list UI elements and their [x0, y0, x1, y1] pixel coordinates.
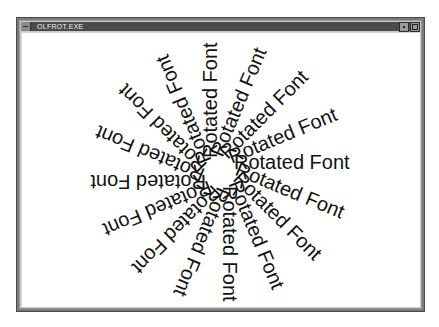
system-menu-button[interactable] [21, 22, 31, 31]
client-area [21, 32, 420, 307]
title-bar[interactable]: OLFROT.EXE [21, 22, 420, 31]
window-title: OLFROT.EXE [37, 22, 398, 31]
minimize-button[interactable] [399, 22, 409, 32]
app-window: OLFROT.EXE [16, 17, 425, 312]
window-frame: OLFROT.EXE [19, 20, 422, 309]
maximize-button[interactable] [410, 22, 420, 32]
